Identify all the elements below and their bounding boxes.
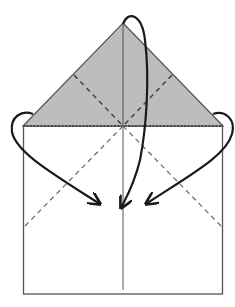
origami-diagram: Top triangular flap (colored side) bbox=[0, 0, 235, 307]
diagram-canvas bbox=[0, 0, 235, 307]
